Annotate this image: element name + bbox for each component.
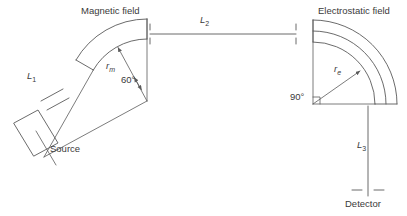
mass-spectrometer-schematic [0, 0, 407, 216]
magnetic-field-label: Magnetic field [81, 6, 140, 16]
path-l1-sub: 1 [32, 76, 36, 83]
path-l2-sub: 2 [205, 20, 209, 27]
path-l3-sub: 3 [362, 145, 366, 152]
path-l3-label: L3 [357, 140, 366, 150]
electrostatic-sector-band [313, 20, 397, 104]
source-label: Source [50, 144, 80, 154]
radius-electrostatic-sub: e [337, 69, 341, 76]
electrostatic-outer-arc [313, 20, 397, 104]
radius-electrostatic-label: re [334, 64, 341, 74]
electrostatic-middle-arc [313, 31, 386, 104]
electrostatic-field-label: Electrostatic field [318, 6, 390, 16]
path-l2-label: L2 [200, 15, 209, 25]
capacitor-plate-lower [47, 98, 69, 110]
magnetic-inner-arc [93, 39, 147, 70]
electrostatic-inner-arc [313, 42, 375, 104]
angle-magnetic-label: 60° [121, 75, 135, 85]
radius-magnetic-label: rm [106, 61, 115, 71]
diagram-canvas: Magnetic field Electrostatic field L1 L2… [0, 0, 407, 216]
detector-label: Detector [345, 199, 381, 209]
angle-electrostatic-label: 90° [290, 92, 304, 102]
path-l1-label: L1 [27, 71, 36, 81]
radius-magnetic-sub: m [109, 66, 115, 73]
capacitor-plate-upper [41, 89, 63, 101]
magnetic-exit-face [76, 60, 93, 70]
magnetic-angle-arc [134, 78, 141, 90]
